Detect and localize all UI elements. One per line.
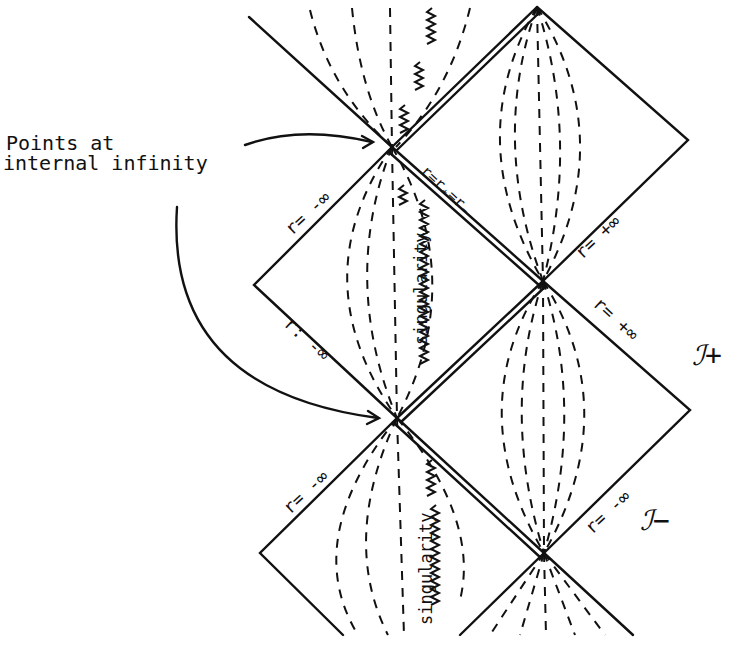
callout-arrows bbox=[176, 134, 379, 424]
label-r-minus-inf-right: r= -∞ bbox=[580, 486, 634, 538]
callout-line2: internal infinity bbox=[3, 151, 208, 175]
boundary-top-left bbox=[249, 17, 392, 147]
arrow-upper bbox=[245, 134, 372, 145]
arrow-lower bbox=[176, 207, 378, 418]
boundary-left-middle-diamond bbox=[254, 147, 397, 418]
boundary-bottom-left bbox=[260, 418, 397, 635]
label-r-minus-inf-lower-left: r: -∞ bbox=[280, 313, 334, 365]
label-scri-plus: ℐ+ bbox=[692, 339, 722, 372]
label-singularity-upper: singularity bbox=[411, 232, 431, 345]
label-singularity-lower: singularity bbox=[416, 512, 436, 625]
label-r-minus-inf-bottom-left: r= -∞ bbox=[278, 466, 332, 518]
label-scri-minus: ℐ− bbox=[640, 504, 670, 537]
penrose-diagram: Points at internal infinity r=r₊=r₋ r= -… bbox=[0, 0, 737, 646]
label-r-plus-inf-upper: r= +∞ bbox=[570, 211, 624, 263]
label-r-plus-inf-lower: r= +∞ bbox=[589, 293, 643, 345]
dashed-curves bbox=[310, 7, 605, 635]
